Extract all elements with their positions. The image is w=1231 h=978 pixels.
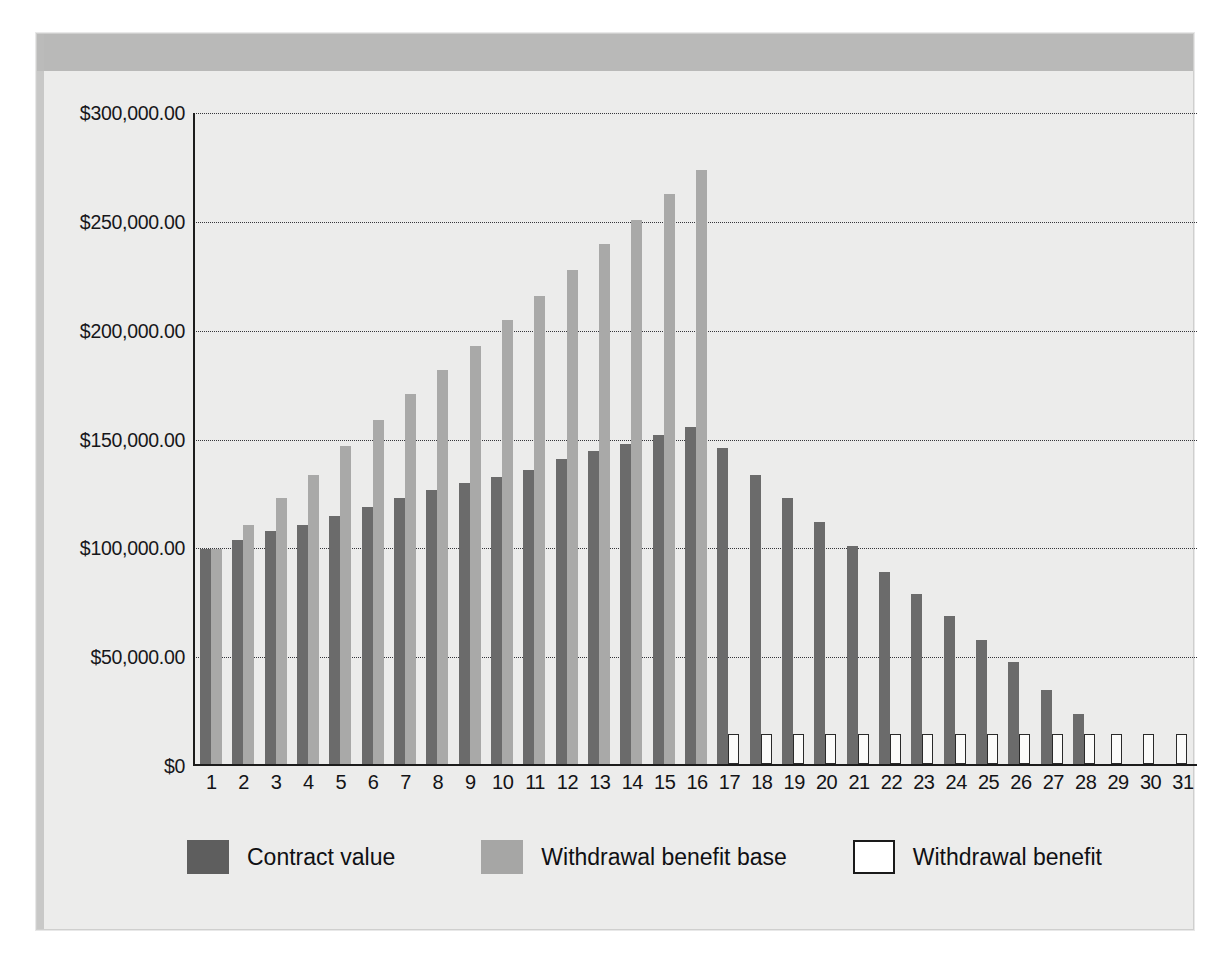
- x-axis-tick-label: 5: [325, 771, 357, 801]
- x-axis-labels: 1234567891011121314151617181920212223242…: [195, 771, 1199, 801]
- x-axis-line: [193, 764, 1197, 766]
- bar-group: [809, 113, 841, 764]
- x-axis-tick-label: 23: [908, 771, 940, 801]
- legend-item-withdrawal-benefit: Withdrawal benefit: [853, 840, 1102, 874]
- bar-group: [1068, 113, 1100, 764]
- bar-contract-value: [944, 616, 955, 764]
- bar-contract-value: [782, 498, 793, 764]
- bar-group: [1036, 113, 1068, 764]
- bar-withdrawal-benefit: [1111, 734, 1122, 764]
- bar-group: [615, 113, 647, 764]
- x-axis-tick-label: 22: [875, 771, 907, 801]
- bar-contract-value: [847, 546, 858, 764]
- x-axis-tick-label: 7: [389, 771, 421, 801]
- bar-withdrawal-benefit-base: [405, 394, 416, 764]
- y-axis-tick-label: $50,000.00: [90, 646, 185, 669]
- bar-group: [583, 113, 615, 764]
- bar-contract-value: [394, 498, 405, 764]
- bar-contract-value: [814, 522, 825, 764]
- bar-contract-value: [200, 549, 211, 764]
- bar-withdrawal-benefit-base: [631, 220, 642, 764]
- x-axis-tick-label: 16: [681, 771, 713, 801]
- bar-group: [454, 113, 486, 764]
- bar-contract-value: [653, 435, 664, 764]
- bar-withdrawal-benefit: [955, 734, 966, 764]
- bar-withdrawal-benefit: [987, 734, 998, 764]
- bar-contract-value: [426, 490, 437, 764]
- bar-withdrawal-benefit: [1052, 734, 1063, 764]
- bar-contract-value: [685, 427, 696, 764]
- x-axis-tick-label: 4: [292, 771, 324, 801]
- bar-contract-value: [1073, 714, 1084, 764]
- x-axis-tick-label: 12: [551, 771, 583, 801]
- bar-withdrawal-benefit-base: [308, 475, 319, 764]
- bar-contract-value: [459, 483, 470, 764]
- legend-item-contract-value: Contract value: [187, 840, 395, 874]
- bar-withdrawal-benefit-base: [340, 446, 351, 764]
- bar-withdrawal-benefit-base: [373, 420, 384, 764]
- bar-withdrawal-benefit: [1084, 734, 1095, 764]
- bar-group: [1100, 113, 1132, 764]
- x-axis-tick-label: 26: [1005, 771, 1037, 801]
- bar-group: [1003, 113, 1035, 764]
- bar-withdrawal-benefit: [728, 734, 739, 764]
- x-axis-tick-label: 3: [260, 771, 292, 801]
- y-axis-labels: $300,000.00$250,000.00$200,000.00$150,00…: [37, 113, 185, 766]
- bar-group: [227, 113, 259, 764]
- bar-contract-value: [297, 525, 308, 764]
- bar-contract-value: [232, 540, 243, 764]
- bar-group: [195, 113, 227, 764]
- bar-contract-value: [911, 594, 922, 764]
- bar-withdrawal-benefit: [1143, 734, 1154, 764]
- x-axis-tick-label: 13: [584, 771, 616, 801]
- x-axis-tick-label: 25: [972, 771, 1004, 801]
- x-axis-tick-label: 30: [1134, 771, 1166, 801]
- bar-contract-value: [362, 507, 373, 764]
- bar-group: [745, 113, 777, 764]
- bar-group: [971, 113, 1003, 764]
- bar-withdrawal-benefit: [890, 734, 901, 764]
- x-axis-tick-label: 9: [454, 771, 486, 801]
- bar-group: [680, 113, 712, 764]
- x-axis-tick-label: 14: [616, 771, 648, 801]
- bar-withdrawal-benefit: [858, 734, 869, 764]
- chart-legend: Contract value Withdrawal benefit base W…: [187, 834, 1102, 880]
- bar-contract-value: [879, 572, 890, 764]
- bar-group: [357, 113, 389, 764]
- bar-group: [389, 113, 421, 764]
- bar-contract-value: [588, 451, 599, 764]
- bar-withdrawal-benefit-base: [567, 270, 578, 764]
- bar-contract-value: [491, 477, 502, 764]
- bar-group: [939, 113, 971, 764]
- bar-contract-value: [976, 640, 987, 764]
- legend-swatch-withdrawal-benefit-icon: [853, 840, 895, 874]
- bar-contract-value: [1008, 662, 1019, 764]
- bar-withdrawal-benefit: [922, 734, 933, 764]
- bar-withdrawal-benefit-base: [534, 296, 545, 764]
- x-axis-tick-label: 2: [227, 771, 259, 801]
- x-axis-tick-label: 29: [1102, 771, 1134, 801]
- y-axis-tick-label: $150,000.00: [80, 428, 185, 451]
- x-axis-tick-label: 1: [195, 771, 227, 801]
- x-axis-tick-label: 6: [357, 771, 389, 801]
- legend-label-withdrawal-benefit: Withdrawal benefit: [913, 844, 1102, 871]
- chart-header-band: [37, 34, 1193, 71]
- bar-contract-value: [717, 448, 728, 764]
- x-axis-tick-label: 8: [422, 771, 454, 801]
- bar-withdrawal-benefit-base: [243, 525, 254, 764]
- y-axis-tick-label: $300,000.00: [80, 102, 185, 125]
- legend-item-withdrawal-benefit-base: Withdrawal benefit base: [481, 840, 786, 874]
- bar-group: [421, 113, 453, 764]
- bar-contract-value: [1041, 690, 1052, 764]
- y-axis-tick-label: $100,000.00: [80, 537, 185, 560]
- bar-withdrawal-benefit: [1176, 734, 1187, 764]
- bar-contract-value: [329, 516, 340, 764]
- legend-label-withdrawal-benefit-base: Withdrawal benefit base: [541, 844, 786, 871]
- bar-withdrawal-benefit-base: [470, 346, 481, 764]
- bar-withdrawal-benefit: [761, 734, 772, 764]
- bar-withdrawal-benefit-base: [276, 498, 287, 764]
- bar-group: [842, 113, 874, 764]
- y-axis-tick-label: $200,000.00: [80, 319, 185, 342]
- legend-swatch-withdrawal-benefit-base-icon: [481, 840, 523, 874]
- x-axis-tick-label: 27: [1037, 771, 1069, 801]
